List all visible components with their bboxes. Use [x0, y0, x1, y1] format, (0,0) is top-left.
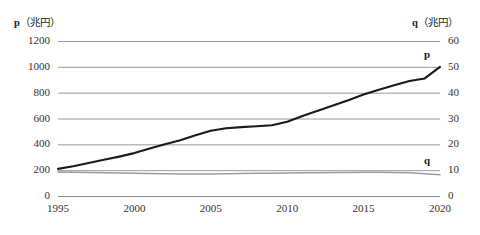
- left-axis-tick: 0: [14, 189, 50, 201]
- series-line-q: [58, 172, 440, 175]
- x-axis-tick: 2020: [417, 202, 463, 214]
- right-axis-tick: 40: [448, 86, 459, 98]
- x-axis-tick: 2015: [341, 202, 387, 214]
- series-lines: [58, 67, 440, 175]
- left-axis-tick: 200: [14, 163, 50, 175]
- right-axis-tick: 30: [448, 112, 459, 124]
- left-axis-tick: 800: [14, 86, 50, 98]
- series-label-p: p: [424, 48, 430, 60]
- x-axis-tick: 2005: [188, 202, 234, 214]
- x-axis-tick: 2010: [264, 202, 310, 214]
- x-axis-tick: 1995: [35, 202, 81, 214]
- x-axis-tick: 2000: [111, 202, 157, 214]
- right-axis-tick: 10: [448, 163, 459, 175]
- chart-container: p（兆円） q（兆円） 020040060080010001200 010203…: [0, 0, 480, 235]
- right-axis-tick: 0: [448, 189, 454, 201]
- series-line-p: [58, 67, 440, 169]
- left-axis-tick: 1000: [14, 60, 50, 72]
- series-label-q: q: [424, 154, 430, 166]
- right-axis-tick: 50: [448, 60, 459, 72]
- left-axis-tick: 1200: [14, 34, 50, 46]
- right-axis-tick: 20: [448, 137, 459, 149]
- left-axis-tick: 400: [14, 137, 50, 149]
- right-axis-tick: 60: [448, 34, 459, 46]
- left-axis-tick: 600: [14, 112, 50, 124]
- plot-area: [0, 0, 480, 235]
